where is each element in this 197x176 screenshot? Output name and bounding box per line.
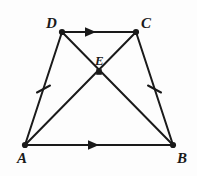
vertex-dot-c <box>133 29 139 35</box>
vertex-label-a: A <box>17 151 27 166</box>
vertex-label-c: C <box>141 16 151 31</box>
vertex-label-b: B <box>177 151 187 166</box>
geometry-canvas <box>0 0 197 176</box>
parallel-arrow-dc-icon <box>85 27 96 37</box>
diagonal-db <box>62 32 173 145</box>
vertex-dot-e <box>96 69 102 75</box>
geometry-figure: D C A B E <box>0 0 197 176</box>
vertex-dot-d <box>59 29 65 35</box>
diagonal-ca <box>25 32 136 145</box>
vertex-label-e: E <box>95 54 104 67</box>
vertex-dot-a <box>22 142 28 148</box>
vertex-dot-b <box>170 142 176 148</box>
vertex-label-d: D <box>46 16 57 31</box>
parallel-arrow-ab-icon <box>88 140 99 150</box>
